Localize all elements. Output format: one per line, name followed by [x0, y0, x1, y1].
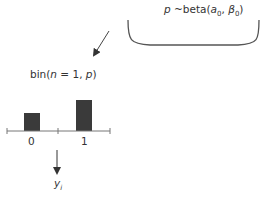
output-label: yi — [54, 177, 62, 192]
arrow-prior-to-likelihood — [94, 31, 109, 55]
bar-0 — [24, 113, 40, 131]
diagram-canvas — [0, 0, 263, 202]
output-sub: i — [60, 184, 62, 192]
likelihood-eq: = 1, — [57, 68, 86, 80]
prior-beta: β — [228, 3, 235, 15]
likelihood-prefix: bin( — [30, 68, 50, 80]
likelihood-p: p — [86, 68, 93, 80]
prior-close: ) — [239, 3, 243, 15]
bar-1 — [76, 100, 92, 131]
tick-label-1: 1 — [81, 135, 88, 147]
likelihood-n: n — [50, 68, 57, 80]
likelihood-label: bin(n = 1, p) — [30, 68, 97, 80]
likelihood-close: ) — [93, 68, 97, 80]
beta-prior-curve — [128, 20, 259, 45]
prior-var: p — [164, 3, 171, 15]
tick-label-0: 0 — [28, 135, 35, 147]
prior-dist: ~beta( — [171, 3, 211, 15]
prior-label: p ~beta(a0, β0) — [164, 3, 243, 18]
